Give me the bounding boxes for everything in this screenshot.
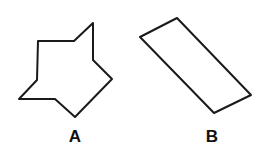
shape-a-polygon [19, 23, 112, 117]
shape-a-label: A [69, 127, 81, 146]
shapes-diagram: A B [0, 0, 268, 149]
shape-b-label: B [206, 127, 218, 146]
shape-b-parallelogram [140, 18, 251, 113]
